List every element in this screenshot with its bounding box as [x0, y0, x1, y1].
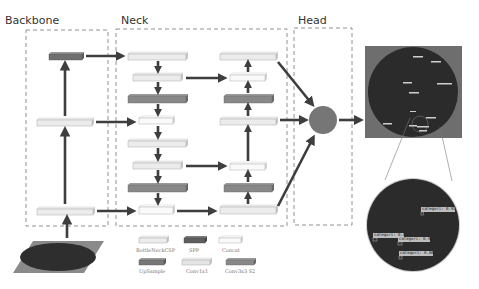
block-bottleneck-backbone-mid [37, 118, 94, 126]
legend-swatch-concat [219, 236, 243, 243]
legend-label-spp: SPP [189, 247, 199, 253]
legend-label-conv1x1: Conv1x1 [186, 268, 208, 274]
block-bottleneck-backbone-low [37, 207, 95, 215]
block-neck-l4-concat [139, 116, 175, 124]
legend-swatch-conv3x3-s2 [226, 258, 256, 265]
input-image [13, 241, 104, 273]
detection-label: categori: 0.92 [422, 206, 456, 211]
block-neck-l2 [133, 73, 183, 81]
block-neck-l8-concat [139, 205, 175, 214]
block-neck-r4 [220, 117, 278, 125]
legend-label-concat: Concat [222, 247, 240, 253]
legend-swatch-spp [184, 236, 207, 243]
legend-swatch-upsample [139, 258, 166, 265]
legend-swatch-bottleneck-csp [139, 236, 169, 243]
block-neck-l1 [128, 52, 188, 60]
block-neck-r7-conv3x3 [224, 183, 274, 192]
block-neck-r1 [220, 52, 278, 60]
detection-label: categori: 0.92 [399, 236, 433, 241]
detection-label: categori: 0.86 [400, 250, 434, 255]
block-neck-l5 [128, 139, 188, 147]
block-neck-r6-concat [230, 162, 267, 170]
legend-label-bottleneck-csp: BottleNeckCSP [136, 247, 175, 253]
block-neck-l3-upsample [128, 94, 188, 103]
block-neck-l7-upsample [128, 183, 188, 192]
head-detect-node [309, 106, 337, 134]
legend-label-conv3x3-s2: Conv3x3 S2 [225, 268, 255, 274]
legend-label-upsample: UpSample [139, 268, 165, 274]
legend-swatch-conv1x1 [182, 258, 212, 265]
zoomed-detection-image [366, 178, 460, 272]
block-neck-r2-concat [230, 73, 267, 81]
block-neck-r8 [220, 205, 278, 214]
block-spp-backbone [49, 52, 84, 60]
output-image [365, 46, 462, 138]
block-neck-l6 [133, 161, 183, 169]
architecture-diagram [0, 0, 479, 289]
arrows [65, 56, 360, 238]
block-neck-r3-conv3x3 [224, 94, 274, 103]
